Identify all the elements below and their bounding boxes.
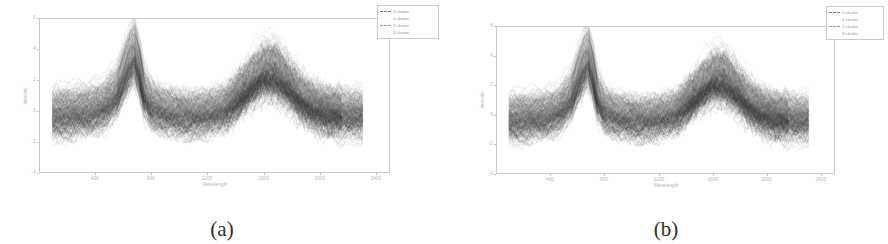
panel-b-spectra-canvas (497, 27, 834, 173)
legend-item[interactable]: 3 cluster (829, 30, 880, 37)
y-tick-mark (494, 144, 496, 145)
x-tick-mark (264, 173, 265, 175)
legend-item-label: 3 cluster (393, 30, 409, 35)
legend-item[interactable]: 3 cluster (380, 29, 435, 36)
y-tick-label: -2 (482, 142, 493, 147)
y-tick-label: -2 (25, 140, 36, 145)
y-tick-label: 4 (25, 47, 36, 52)
legend-line-icon (380, 11, 391, 12)
panel-a-yaxis-title: Intensity (24, 87, 29, 104)
x-tick-mark (207, 173, 208, 175)
panel-b-axes (496, 26, 835, 174)
legend-line-icon (829, 12, 840, 13)
x-tick-label: 2400 (371, 176, 382, 181)
x-tick-label: 1200 (653, 177, 664, 182)
x-tick-label: 400 (91, 176, 99, 181)
x-tick-mark (604, 174, 605, 176)
y-tick-label: 4 (482, 53, 493, 58)
x-tick-mark (376, 173, 377, 175)
panel-b-legend[interactable]: 0 cluster 1 cluster 2 cluster 3 cluster (826, 6, 884, 40)
x-tick-mark (659, 174, 660, 176)
x-tick-mark (95, 173, 96, 175)
y-tick-label: 6 (482, 24, 493, 29)
panel-b: 4008001200160020002400-4-20246 Wavelengt… (444, 0, 888, 244)
legend-item[interactable]: 0 cluster (829, 9, 880, 16)
panel-a-plot-shell: 4008001200160020002400-4-20246 Wavelengt… (0, 0, 444, 196)
x-tick-label: 1600 (258, 176, 269, 181)
y-tick-mark (37, 173, 39, 174)
x-tick-label: 1200 (202, 176, 213, 181)
panel-b-yaxis-title: Intensity (481, 92, 486, 109)
legend-item[interactable]: 1 cluster (829, 16, 880, 23)
panel-b-plot-shell: 4008001200160020002400-4-20246 Wavelengt… (444, 0, 888, 196)
y-tick-label: 6 (25, 16, 36, 21)
y-tick-mark (37, 142, 39, 143)
x-tick-label: 2400 (816, 177, 827, 182)
x-tick-mark (821, 174, 822, 176)
x-tick-label: 800 (147, 176, 155, 181)
x-tick-mark (713, 174, 714, 176)
panel-b-xaxis-title: Wavelength (653, 183, 678, 188)
x-tick-label: 2000 (762, 177, 773, 182)
legend-item-label: 1 cluster (393, 16, 409, 21)
y-tick-mark (494, 115, 496, 116)
x-tick-label: 1600 (708, 177, 719, 182)
x-tick-label: 2000 (315, 176, 326, 181)
figure-row: 4008001200160020002400-4-20246 Wavelengt… (0, 0, 888, 244)
panel-a: 4008001200160020002400-4-20246 Wavelengt… (0, 0, 444, 244)
legend-item-label: 3 cluster (842, 31, 858, 36)
y-tick-mark (37, 18, 39, 19)
panel-a-legend[interactable]: 0 cluster 1 cluster 2 cluster 3 cluster (377, 5, 439, 39)
panel-a-caption: (a) (0, 219, 444, 240)
x-tick-label: 400 (546, 177, 554, 182)
x-tick-mark (767, 174, 768, 176)
y-tick-label: 2 (482, 83, 493, 88)
legend-item[interactable]: 0 cluster (380, 8, 435, 15)
y-tick-label: -4 (25, 171, 36, 176)
y-tick-label: 2 (25, 78, 36, 83)
x-tick-mark (320, 173, 321, 175)
y-tick-mark (37, 111, 39, 112)
y-tick-mark (494, 85, 496, 86)
x-tick-mark (151, 173, 152, 175)
y-tick-label: 0 (25, 109, 36, 114)
legend-item[interactable]: 2 cluster (829, 23, 880, 30)
legend-item-label: 2 cluster (393, 23, 409, 28)
panel-a-spectra-canvas (40, 19, 389, 172)
panel-a-axes (39, 18, 390, 173)
legend-line-icon (829, 26, 840, 27)
legend-item-label: 0 cluster (842, 10, 858, 15)
panel-a-xaxis-title: Wavelength (202, 182, 227, 187)
legend-item-label: 1 cluster (842, 17, 858, 22)
y-tick-mark (494, 26, 496, 27)
legend-line-icon (380, 25, 391, 26)
y-tick-mark (494, 174, 496, 175)
legend-item[interactable]: 2 cluster (380, 22, 435, 29)
y-tick-mark (37, 80, 39, 81)
y-tick-mark (37, 49, 39, 50)
y-tick-label: 0 (482, 112, 493, 117)
x-tick-mark (550, 174, 551, 176)
y-tick-label: -4 (482, 172, 493, 177)
y-tick-mark (494, 56, 496, 57)
x-tick-label: 800 (601, 177, 609, 182)
panel-b-caption: (b) (444, 219, 888, 240)
legend-item-label: 2 cluster (842, 24, 858, 29)
legend-item[interactable]: 1 cluster (380, 15, 435, 22)
legend-item-label: 0 cluster (393, 9, 409, 14)
